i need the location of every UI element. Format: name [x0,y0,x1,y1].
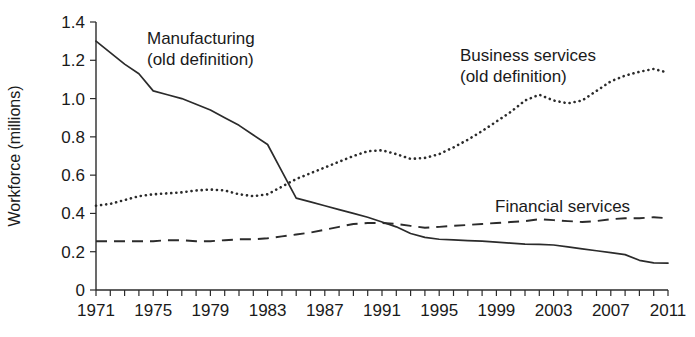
x-tick-label: 2011 [650,301,687,320]
x-tick-label: 1979 [191,301,229,320]
y-tick-label: 1.2 [61,51,85,70]
y-tick-label: 0.4 [61,204,85,223]
series-solid [96,41,668,263]
y-axis: 00.20.40.60.81.01.21.4 [61,13,96,300]
x-tick-label: 1983 [249,301,287,320]
y-tick-label: 0.6 [61,166,85,185]
line-chart: 00.20.40.60.81.01.21.4 19711975197919831… [0,0,695,337]
x-tick-label: 1995 [420,301,458,320]
y-tick-label: 0.8 [61,128,85,147]
financial-services-label: Financial services [495,197,630,216]
x-axis: 1971197519791983198719911995199920032007… [77,290,686,320]
y-axis-ticks [90,22,96,290]
y-tick-label: 1.4 [61,13,85,32]
y-axis-tick-labels: 00.20.40.60.81.01.21.4 [61,13,85,300]
business-services-label-line1: Business services [460,46,596,65]
manufacturing-label-line2: (old definition) [147,50,254,69]
x-tick-label: 1999 [477,301,515,320]
x-tick-label: 1987 [306,301,344,320]
business-services-label-line2: (old definition) [460,67,567,86]
y-tick-label: 1.0 [61,90,85,109]
business-services-label: Business services (old definition) [460,46,596,86]
x-tick-label: 2007 [592,301,630,320]
manufacturing-label-line1: Manufacturing [147,29,255,48]
financial-services-label-line1: Financial services [495,197,630,216]
x-tick-label: 2003 [535,301,573,320]
series-lines [96,41,668,263]
manufacturing-label: Manufacturing (old definition) [147,29,255,69]
series-dashed [96,217,668,241]
x-tick-label: 1991 [363,301,401,320]
x-axis-ticks [96,290,668,296]
chart-canvas: 00.20.40.60.81.01.21.4 19711975197919831… [0,0,695,337]
y-axis-title: Workforce (millions) [6,85,23,226]
y-tick-label: 0.2 [61,243,85,262]
x-tick-label: 1975 [134,301,172,320]
y-tick-label: 0 [76,281,85,300]
x-axis-tick-labels: 1971197519791983198719911995199920032007… [77,301,686,320]
x-tick-label: 1971 [77,301,115,320]
series-dotted [96,69,668,206]
